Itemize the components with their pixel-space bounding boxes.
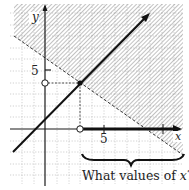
x-axis-label: x [175,130,182,143]
open-circle-y [42,80,48,86]
inequality-graph-figure: y x 5 5 What values of x? [0,0,189,190]
question-text: What values of x? [82,168,189,183]
intersection-point [77,80,82,85]
y-tick-label: 5 [31,64,39,78]
y-axis-label: y [31,10,39,24]
x-tick-label: 5 [100,132,108,146]
graph-canvas: y x 5 5 What values of x? [0,0,189,190]
shaded-region [14,4,183,155]
open-circle-x [77,126,83,132]
curly-brace [82,154,184,165]
